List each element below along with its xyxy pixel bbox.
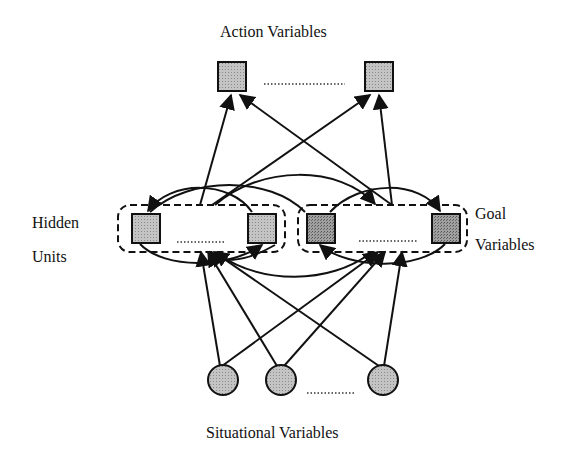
hidden-node-1 — [132, 214, 160, 243]
network-diagram — [0, 0, 583, 459]
hidden-to-action-connections — [200, 95, 392, 205]
action-node-n — [365, 62, 393, 91]
situational-node-2 — [266, 365, 296, 395]
hidden-units-label-line2: Units — [32, 248, 67, 266]
action-node-1 — [218, 62, 246, 91]
goal-node-n — [432, 214, 460, 243]
situational-to-hidden-goal-connections — [201, 252, 402, 366]
hidden-node-n — [248, 214, 276, 243]
goal-variables-label-line1: Goal — [475, 205, 506, 223]
hidden-units-label-line1: Hidden — [32, 214, 79, 232]
situational-node-n — [368, 365, 398, 395]
action-variables-label: Action Variables — [220, 23, 327, 41]
goal-variables-label-line2: Variables — [475, 236, 535, 254]
goal-node-1 — [307, 214, 335, 243]
situational-variables-label: Situational Variables — [206, 424, 339, 442]
situational-node-1 — [208, 365, 238, 395]
lateral-connections-top — [148, 175, 440, 212]
